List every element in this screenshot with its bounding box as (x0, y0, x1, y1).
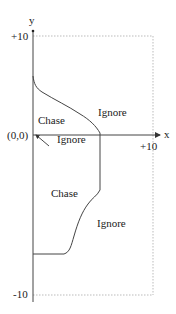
y-max-label: +10 (11, 30, 29, 42)
y-min-label: -10 (13, 288, 28, 300)
region-label-ignore-lower: Ignore (97, 217, 126, 229)
chase-ignore-diagram: y +10 (0,0) x +10 -10 Chase Ignore Ignor… (0, 0, 176, 314)
region-label-chase-upper: Chase (38, 114, 65, 126)
chase-boundary-curve (33, 76, 100, 254)
y-axis-label: y (29, 14, 35, 26)
origin-label: (0,0) (7, 129, 28, 142)
x-axis-label: x (164, 128, 170, 140)
y-axis-tip-dot (32, 30, 35, 33)
region-label-chase-lower: Chase (51, 187, 78, 199)
region-label-ignore-origin: Ignore (57, 133, 86, 145)
region-label-ignore-upper: Ignore (98, 106, 127, 118)
pointer-arrow (36, 135, 49, 146)
x-max-label: +10 (140, 140, 158, 152)
